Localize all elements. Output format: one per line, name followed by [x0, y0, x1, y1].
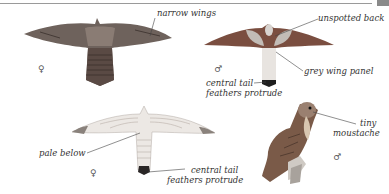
male-symbol-top: ♂ [214, 64, 222, 74]
label-central-tail-2-line2: feathers protrude [167, 176, 243, 185]
label-unspotted-back: unspotted back [318, 14, 384, 23]
label-central-tail-1-line1: central tail [206, 79, 253, 88]
leader-central-tail-2 [148, 169, 185, 172]
male-perched-bird [262, 102, 318, 184]
label-tiny-line1: tiny [360, 119, 376, 128]
label-pale-below: pale below [39, 149, 86, 158]
label-narrow-wings: narrow wings [157, 9, 216, 18]
female-symbol-top: ♀ [38, 64, 45, 74]
label-central-tail-2-line1: central tail [191, 166, 238, 175]
female-upperside-bird [24, 18, 172, 86]
leader-pale-below [87, 133, 140, 153]
label-grey-wing-panel: grey wing panel [304, 67, 373, 76]
male-symbol-bottom: ♂ [333, 152, 341, 162]
label-central-tail-1-line2: feathers protrude [206, 89, 282, 98]
female-symbol-bottom: ♀ [90, 168, 97, 178]
leader-grey-wing-panel [276, 52, 303, 71]
label-tiny-line2: moustache [333, 129, 380, 138]
leader-tiny-moustache [313, 112, 356, 124]
